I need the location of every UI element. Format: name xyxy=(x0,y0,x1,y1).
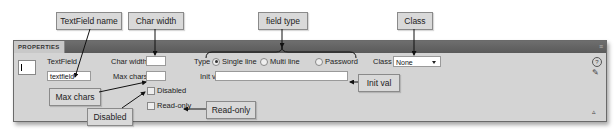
disabled-checkbox[interactable]: Disabled xyxy=(147,86,186,95)
checkbox-icon xyxy=(147,102,155,110)
callout-char-width: Char width xyxy=(128,12,184,30)
callout-class: Class xyxy=(397,12,433,30)
char-width-input[interactable] xyxy=(146,56,166,66)
readonly-checkbox[interactable]: Read-only xyxy=(147,101,191,110)
radio-unselected-icon xyxy=(315,58,323,66)
callout-max-chars: Max chars xyxy=(49,88,101,106)
radio-single-line[interactable]: Single line xyxy=(212,57,257,66)
chevron-down-icon xyxy=(432,61,436,64)
properties-tab[interactable]: PROPERTIES xyxy=(14,41,65,53)
callout-read-only: Read-only xyxy=(206,101,256,119)
radio-unselected-icon xyxy=(260,58,268,66)
type-label: Type xyxy=(194,57,210,66)
help-icon[interactable]: ? xyxy=(592,57,602,67)
radio-multi-line[interactable]: Multi line xyxy=(260,57,300,66)
class-select[interactable]: None xyxy=(393,56,441,67)
panel-menu-icon[interactable]: ≡ xyxy=(599,43,603,51)
textfield-icon xyxy=(18,60,36,75)
callout-field-type: field type xyxy=(258,12,308,30)
textfield-name-input[interactable]: textfield xyxy=(47,71,91,81)
max-chars-label: Max chars xyxy=(113,72,148,81)
callout-init-val: Init val xyxy=(358,74,400,92)
panel-header: PROPERTIES ≡ xyxy=(14,41,606,53)
char-width-label: Char width xyxy=(111,57,147,66)
class-label: Class xyxy=(373,57,392,66)
collapse-icon[interactable]: ▵ xyxy=(592,108,596,116)
callout-disabled: Disabled xyxy=(87,108,133,126)
textfield-name-label: TextField xyxy=(47,57,77,66)
edit-icon[interactable]: ✎ xyxy=(592,69,599,77)
callout-textfield-name: TextField name xyxy=(56,12,122,30)
init-val-input[interactable] xyxy=(215,71,348,81)
radio-selected-icon xyxy=(212,58,220,66)
checkbox-icon xyxy=(147,87,155,95)
max-chars-input[interactable] xyxy=(146,71,166,81)
radio-password[interactable]: Password xyxy=(315,57,358,66)
